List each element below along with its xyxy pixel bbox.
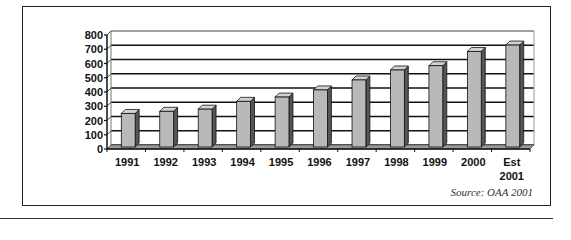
- bar-side: [212, 105, 216, 147]
- y-tick-label: 200: [85, 115, 103, 127]
- bar-1993: [198, 109, 212, 147]
- x-tick-label: 1999: [423, 156, 447, 168]
- x-tick-label: 1997: [346, 156, 370, 168]
- y-tick-label: 600: [85, 58, 103, 70]
- bar-1995: [275, 97, 289, 147]
- y-tick-label: 300: [85, 100, 103, 112]
- y-tick-label: 800: [85, 29, 103, 41]
- y-tick-label: 100: [85, 129, 103, 141]
- x-tick-label: 1995: [269, 156, 293, 168]
- side-gridline: [107, 31, 111, 35]
- bar-1998: [390, 70, 404, 147]
- bar-side: [289, 93, 293, 147]
- bar-side: [443, 62, 447, 147]
- bar-1991: [121, 113, 135, 147]
- source-caption: Source: OAA 2001: [451, 186, 533, 198]
- x-tick-label: 1994: [230, 156, 255, 168]
- bar-1999: [429, 66, 443, 147]
- bar-side: [366, 76, 370, 147]
- bar-1994: [237, 101, 251, 147]
- bar-1996: [314, 90, 328, 147]
- bar-1997: [352, 80, 366, 147]
- y-tick-label: 700: [85, 43, 103, 55]
- x-tick-label: Est: [503, 156, 520, 168]
- bar-1992: [160, 111, 174, 147]
- bar-side: [251, 97, 255, 147]
- bar-side: [327, 86, 331, 147]
- x-tick-label: 1993: [192, 156, 216, 168]
- bar-est-2001: [506, 45, 520, 147]
- x-tick-label: 2001: [500, 170, 524, 182]
- y-tick-label: 500: [85, 72, 103, 84]
- bar-side: [174, 107, 178, 147]
- x-tick-label: 1991: [115, 156, 139, 168]
- bar-side: [481, 47, 485, 147]
- x-tick-label: 1998: [384, 156, 408, 168]
- x-tick-label: 1996: [307, 156, 331, 168]
- bar-side: [404, 66, 408, 147]
- y-tick-label: 0: [97, 143, 103, 155]
- y-tick-label: 400: [85, 86, 103, 98]
- x-tick-label: 1992: [153, 156, 177, 168]
- bar-2000: [467, 51, 481, 147]
- bar-side: [520, 41, 524, 147]
- bar-side: [135, 109, 139, 147]
- x-tick-label: 2000: [461, 156, 485, 168]
